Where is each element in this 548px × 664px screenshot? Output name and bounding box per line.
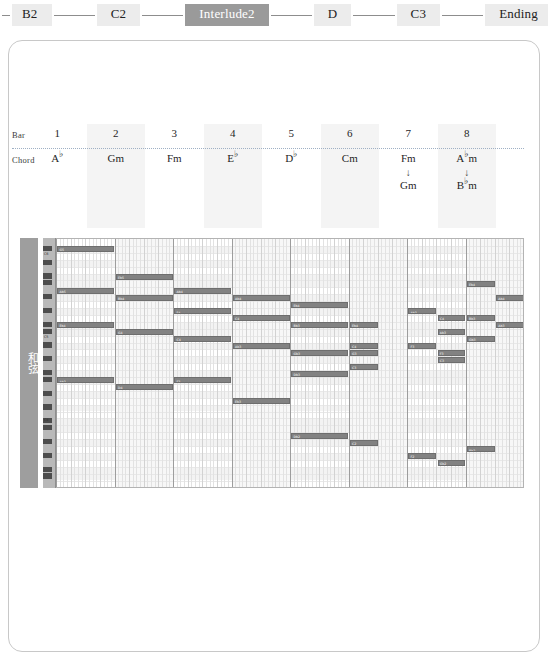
piano-black-key[interactable] [43, 391, 52, 396]
note-label: D4 [118, 385, 122, 390]
piano-black-key[interactable] [43, 273, 52, 278]
note-block[interactable]: F3 [438, 350, 466, 356]
note-label: Ab3 [59, 379, 65, 384]
bar-row-label: Bar [12, 130, 25, 140]
note-block[interactable]: C4 [233, 315, 290, 321]
section-tab-ending[interactable]: Ending [485, 4, 548, 25]
note-block[interactable]: Ab4 [233, 295, 290, 301]
piano-black-key[interactable] [43, 473, 52, 478]
grid-line-vertical [257, 239, 258, 488]
note-block[interactable]: Eb4 [467, 281, 495, 287]
grid-line-vertical [224, 239, 225, 488]
note-block[interactable]: Ab3 [57, 377, 114, 383]
piano-black-key[interactable] [43, 377, 52, 382]
section-tab-d[interactable]: D [314, 4, 352, 25]
note-block[interactable]: C3 [438, 357, 466, 363]
piano-black-key[interactable] [43, 280, 52, 285]
grid-line-vertical [111, 239, 112, 488]
piano-black-key[interactable] [43, 260, 52, 265]
piano-black-key[interactable] [43, 404, 52, 409]
note-block[interactable]: Ab3 [438, 329, 466, 335]
note-label: Bb3 [469, 316, 475, 321]
note-block[interactable]: C2 [350, 440, 378, 446]
note-block[interactable]: G3 [350, 350, 378, 356]
note-block[interactable]: Ab3 [496, 322, 524, 328]
chord-name[interactable]: A♭ [28, 152, 87, 166]
grid-line-vertical [312, 239, 313, 488]
grid-line-vertical [458, 239, 459, 488]
note-block[interactable]: Bb2 [467, 446, 495, 452]
note-label: Ab5 [59, 289, 65, 294]
piano-black-key[interactable] [43, 329, 52, 334]
note-block[interactable]: Gb3 [467, 336, 495, 342]
note-grid[interactable]: G5Eb5Ab5Bb4Eb4G4Ab3D4Ab4Ab4F4C4C4Ab3F3Eb… [56, 238, 524, 488]
note-block[interactable]: Db3 [291, 371, 348, 377]
note-block[interactable]: Eb5 [116, 274, 173, 280]
note-label: Eb4 [59, 323, 65, 328]
chord-name[interactable]: Fm↓Gm [379, 152, 438, 193]
piano-black-key[interactable] [43, 425, 52, 430]
note-block[interactable]: F4 [174, 308, 231, 314]
chord-name[interactable]: Fm [145, 152, 204, 166]
note-block[interactable]: Ab5 [57, 288, 114, 294]
chord-name[interactable]: D♭ [262, 152, 321, 166]
note-block[interactable]: C3 [350, 364, 378, 370]
section-tab-b2[interactable]: B2 [12, 4, 52, 25]
grid-line-vertical [67, 239, 68, 488]
note-label: Eb5 [118, 275, 124, 280]
chord-name[interactable]: A♭m↓B♭m [438, 152, 497, 193]
note-block[interactable]: Bb4 [116, 295, 173, 301]
note-block[interactable]: Bb3 [467, 315, 495, 321]
chord-name[interactable]: Gm [87, 152, 146, 166]
note-block[interactable]: Eb4 [350, 322, 378, 328]
piano-black-key[interactable] [43, 439, 52, 444]
note-block[interactable]: F2 [408, 453, 436, 459]
note-block[interactable]: Eb4 [291, 302, 348, 308]
chord-track-label: 和弦 [20, 238, 38, 488]
grid-line-vertical [177, 239, 178, 488]
note-block[interactable]: C4 [350, 343, 378, 349]
piano-black-key[interactable] [43, 294, 52, 299]
piano-black-key[interactable] [43, 308, 52, 313]
note-block[interactable]: Db2 [291, 433, 348, 439]
note-block[interactable]: Eb3 [233, 398, 290, 404]
note-block[interactable]: C4 [174, 336, 231, 342]
note-block[interactable]: G5 [57, 246, 114, 252]
note-block[interactable]: C4 [438, 315, 466, 321]
grid-line-vertical [407, 239, 408, 488]
piano-black-key[interactable] [43, 322, 52, 327]
grid-line-vertical [396, 239, 397, 488]
note-block[interactable]: Ab4 [496, 295, 524, 301]
note-block[interactable]: Ab4 [174, 288, 231, 294]
grid-line-vertical [261, 239, 262, 488]
section-tab-interlude2[interactable]: Interlude2 [185, 4, 268, 25]
note-block[interactable]: D4 [116, 384, 173, 390]
piano-black-key[interactable] [43, 467, 52, 472]
section-tab-c2[interactable]: C2 [97, 4, 141, 25]
piano-black-key[interactable] [43, 453, 52, 458]
note-block[interactable]: Ab3 [233, 343, 290, 349]
chord-name[interactable]: Cm [321, 152, 380, 166]
chord-name[interactable]: E♭ [204, 152, 263, 166]
grid-line-vertical [213, 239, 214, 488]
note-block[interactable]: Eb4 [57, 322, 114, 328]
piano-black-key[interactable] [43, 342, 52, 347]
piano-black-key[interactable] [43, 356, 52, 361]
section-tab-c3[interactable]: C3 [397, 4, 441, 25]
nav-connector [142, 15, 183, 16]
piano-keyboard[interactable]: C6C5C4 [43, 238, 56, 488]
grid-line-vertical [221, 239, 222, 488]
note-block[interactable]: Gb3 [291, 350, 348, 356]
note-block[interactable]: Bb3 [291, 322, 348, 328]
note-label: C4 [235, 316, 239, 321]
grid-line-vertical [74, 239, 75, 488]
note-block[interactable]: F3 [174, 377, 231, 383]
note-block[interactable]: F3 [408, 343, 436, 349]
piano-black-key[interactable] [43, 246, 52, 251]
grid-line-vertical [268, 239, 269, 488]
grid-line-vertical [56, 239, 57, 488]
note-block[interactable]: Gb2 [438, 460, 466, 466]
note-block[interactable]: G4 [116, 329, 173, 335]
piano-black-key[interactable] [43, 370, 52, 375]
note-block[interactable]: Ab3 [408, 308, 436, 314]
